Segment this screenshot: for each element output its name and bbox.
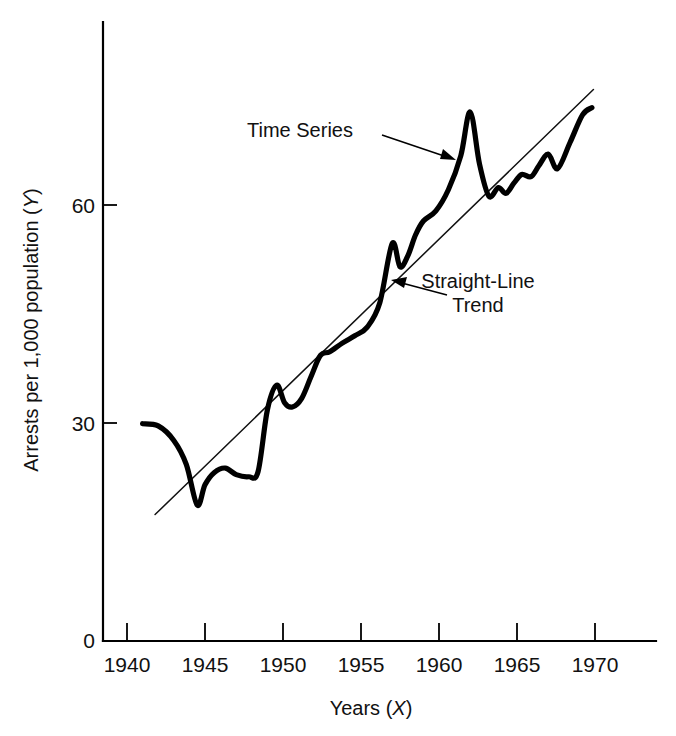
- x-tick-1965: 1965: [494, 623, 541, 676]
- y-tick-label-30: 30: [72, 412, 95, 435]
- y-tick-60: 60: [72, 194, 117, 217]
- x-tick-1960: 1960: [416, 623, 463, 676]
- y-tick-0: 0: [83, 629, 117, 652]
- x-tick-1955: 1955: [338, 623, 385, 676]
- time-series-annotation-label: Time Series: [247, 119, 353, 141]
- y-tick-label-0: 0: [83, 629, 95, 652]
- y-axis-title-text: Arrests per 1,000 population: [20, 220, 42, 471]
- y-tick-30: 30: [72, 412, 117, 435]
- time-series-arrow-head: [440, 149, 456, 160]
- y-axis-ticks: 0 30 60: [72, 194, 117, 652]
- line-chart-canvas: 0 30 60 1940 1945 1950: [0, 0, 676, 736]
- y-axis-title: Arrests per 1,000 population (Y): [20, 188, 42, 472]
- y-tick-label-60: 60: [72, 194, 95, 217]
- straight-line-trend-path: [155, 89, 593, 514]
- x-tick-1940: 1940: [104, 623, 151, 676]
- trend-annotation-label-line1: Straight-Line: [421, 270, 534, 292]
- x-axis-ticks: 1940 1945 1950 1955 1960 1965: [104, 623, 619, 676]
- x-tick-label-1965: 1965: [494, 653, 541, 676]
- x-tick-1950: 1950: [260, 623, 307, 676]
- trend-annotation-label-line2: Trend: [452, 294, 504, 316]
- x-tick-label-1970: 1970: [572, 653, 619, 676]
- x-tick-1945: 1945: [182, 623, 229, 676]
- time-series-annotation: Time Series: [247, 119, 456, 160]
- axes-group: [103, 22, 656, 641]
- time-series-path: [143, 108, 592, 506]
- x-tick-label-1940: 1940: [104, 653, 151, 676]
- x-tick-label-1950: 1950: [260, 653, 307, 676]
- chart-figure: 0 30 60 1940 1945 1950: [0, 0, 676, 736]
- x-tick-label-1955: 1955: [338, 653, 385, 676]
- x-axis-title-text: Years: [330, 697, 380, 719]
- trend-annotation: Straight-Line Trend: [391, 270, 535, 316]
- time-series-leader-line: [382, 135, 450, 158]
- x-tick-label-1945: 1945: [182, 653, 229, 676]
- x-axis-title: Years (X): [330, 697, 413, 719]
- x-axis-title-symbol: X: [391, 697, 406, 719]
- x-tick-label-1960: 1960: [416, 653, 463, 676]
- x-tick-1970: 1970: [572, 623, 619, 676]
